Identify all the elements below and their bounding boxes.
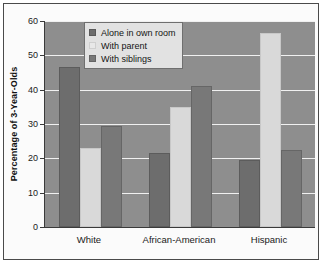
bar-white-with-parent xyxy=(80,148,101,227)
bar-white-alone-in-own-room xyxy=(59,67,80,227)
legend-item-label: With siblings xyxy=(101,54,152,64)
x-axis-tick-label: African-American xyxy=(143,234,216,245)
y-axis-tick-label: 40 xyxy=(4,85,38,95)
legend-item: Alone in own room xyxy=(89,26,176,39)
y-axis-tick-label: 60 xyxy=(4,16,38,26)
x-axis-tick-label: White xyxy=(77,234,101,245)
bar-hispanic-with-parent xyxy=(260,33,281,227)
legend-item-label: With parent xyxy=(101,41,147,51)
chart-screenshot: Percentage of 3-Year-Olds 6050403020100 … xyxy=(0,0,322,263)
bar-hispanic-alone-in-own-room xyxy=(239,160,260,227)
bar-white-with-siblings xyxy=(101,126,122,227)
legend-swatch-icon xyxy=(89,29,96,36)
legend: Alone in own roomWith parentWith sibling… xyxy=(84,22,183,69)
bar-african-american-alone-in-own-room xyxy=(149,153,170,227)
y-axis-tick-label: 50 xyxy=(4,50,38,60)
y-axis-tick-label: 0 xyxy=(4,222,38,232)
bar-hispanic-with-siblings xyxy=(281,150,302,227)
bar-african-american-with-siblings xyxy=(191,86,212,227)
y-axis-tick-label: 10 xyxy=(4,188,38,198)
figure-frame: Percentage of 3-Year-Olds 6050403020100 … xyxy=(3,3,319,260)
legend-swatch-icon xyxy=(89,42,96,49)
legend-item: With siblings xyxy=(89,52,176,65)
legend-item: With parent xyxy=(89,39,176,52)
bar-african-american-with-parent xyxy=(170,107,191,227)
legend-swatch-icon xyxy=(89,55,96,62)
x-axis-tick-label: Hispanic xyxy=(251,234,287,245)
legend-item-label: Alone in own room xyxy=(101,28,176,38)
y-axis-tick-label: 20 xyxy=(4,153,38,163)
y-axis-tick-label: 30 xyxy=(4,119,38,129)
